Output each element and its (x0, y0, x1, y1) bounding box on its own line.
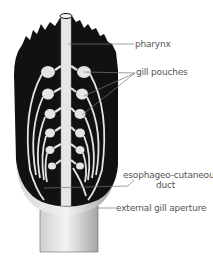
label-pharynx: pharynx (135, 39, 171, 49)
label-esophageo-cutaneous: esophageo-cutaneous (123, 170, 213, 180)
pharynx-tube (61, 16, 71, 206)
label-duct: duct (156, 180, 175, 190)
label-external-gill-aperture: external gill aperture (116, 203, 206, 213)
gill-pouch-illustration (0, 0, 213, 257)
label-gill-pouches: gill pouches (136, 67, 187, 77)
pharynx-opening (60, 14, 72, 19)
